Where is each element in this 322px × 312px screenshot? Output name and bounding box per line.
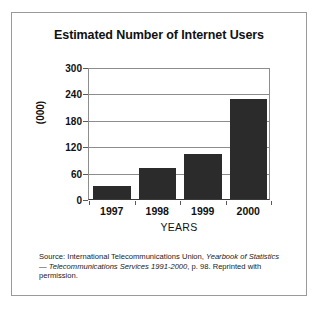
y-tick-label: 120 xyxy=(65,142,82,153)
x-tick-label-2000: 2000 xyxy=(226,205,272,217)
y-tick-label: 0 xyxy=(76,195,82,206)
figure-panel: Estimated Number of Internet Users (000)… xyxy=(11,12,307,296)
x-axis-title: YEARS xyxy=(88,221,270,233)
x-tick-label-1998: 1998 xyxy=(135,205,181,217)
y-tick-label: 300 xyxy=(65,63,82,74)
y-tick-label: 240 xyxy=(65,89,82,100)
x-tick-label-1997: 1997 xyxy=(89,205,135,217)
chart-title: Estimated Number of Internet Users xyxy=(12,28,306,42)
source-note: Source: International Telecommunications… xyxy=(39,252,285,281)
y-axis-tick-labels: 060120180240300 xyxy=(48,68,82,200)
x-axis-tick-labels: 1997199819992000 xyxy=(89,201,269,217)
plot-area xyxy=(88,68,270,200)
y-axis-title: (000) xyxy=(35,83,46,143)
source-title-italic: Telecommunications Services 1991-2000 xyxy=(49,262,188,271)
source-text: Source: International Telecommunications… xyxy=(39,252,206,261)
x-tick-label-1999: 1999 xyxy=(180,205,226,217)
plot-frame xyxy=(88,68,270,200)
source-title-italic: Yearbook of Statistics xyxy=(206,252,279,261)
x-tick-mark xyxy=(271,201,272,205)
y-tick-mark xyxy=(83,200,88,201)
y-tick-label: 180 xyxy=(65,115,82,126)
source-text: — xyxy=(39,262,49,271)
y-tick-label: 60 xyxy=(71,168,82,179)
